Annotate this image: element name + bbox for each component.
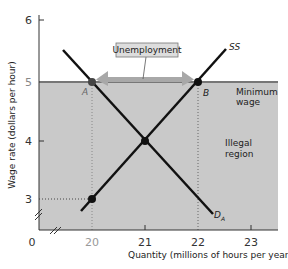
y-tick-label-4: 4: [25, 135, 32, 148]
illegal-region-label-1: Illegal: [225, 138, 252, 148]
unemployment-label: Unemployment: [112, 45, 182, 55]
chart-svg: Unemployment 6 5 4 3 0 20 21 22 23 Wage …: [0, 0, 288, 269]
x-tick-label-23: 23: [244, 236, 258, 249]
x-tick-label-21: 21: [138, 236, 152, 249]
y-tick-label-6: 6: [25, 14, 32, 27]
unemployment-leader: [143, 57, 146, 79]
point-a: [88, 78, 96, 86]
x-tick-label-22: 22: [191, 236, 205, 249]
illegal-region-label-2: region: [225, 149, 253, 159]
chart-root: Unemployment 6 5 4 3 0 20 21 22 23 Wage …: [0, 0, 288, 269]
point-b: [194, 78, 202, 86]
point-equilibrium: [141, 137, 149, 145]
ss-label: SS: [229, 42, 240, 52]
minimum-wage-label-1: Minimum: [236, 87, 278, 97]
y-axis-title: Wage rate (dollars per hour): [7, 61, 17, 189]
x-tick-label-20: 20: [85, 236, 99, 249]
point-b-label: B: [203, 88, 209, 98]
y-tick-label-5: 5: [25, 76, 32, 89]
x-origin-label: 0: [29, 236, 36, 249]
point-20-3: [88, 195, 96, 203]
point-a-label: A: [81, 87, 88, 97]
minimum-wage-label-2: wage: [236, 97, 261, 107]
x-axis-title: Quantity (millions of hours per year): [128, 250, 288, 260]
y-tick-label-3: 3: [25, 193, 32, 206]
